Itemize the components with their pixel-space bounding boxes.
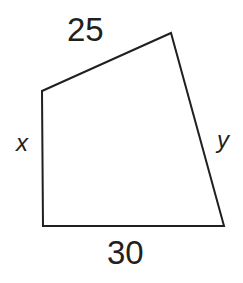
side-label-left: x bbox=[16, 131, 28, 155]
geometry-figure: 25 y 30 x bbox=[0, 0, 243, 283]
side-label-bottom: 30 bbox=[107, 236, 144, 269]
side-label-right: y bbox=[217, 128, 229, 152]
side-label-top: 25 bbox=[67, 13, 104, 46]
